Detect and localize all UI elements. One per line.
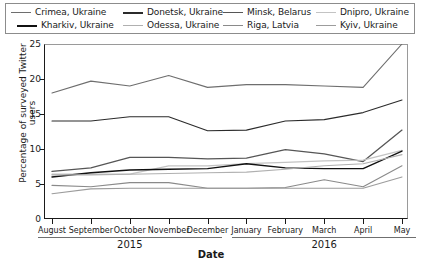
x-axis-tick-label: September <box>69 226 113 235</box>
legend-item[interactable]: Odessa, Ukraine <box>121 21 219 30</box>
legend-row: Kharkiv, UkraineOdessa, UkraineRiga, Lat… <box>9 19 411 32</box>
x-axis-year-groups: 20152016 <box>44 237 408 249</box>
x-axis-tickmark <box>130 219 131 224</box>
legend-item-label: Riga, Latvia <box>247 21 299 30</box>
legend-row: Crimea, UkraineDonetsk, UkraineMinsk, Be… <box>9 6 411 19</box>
year-group-rule <box>232 237 416 238</box>
y-axis-tickmark <box>40 184 44 185</box>
series-lines <box>44 44 408 219</box>
x-axis-tickmark <box>285 219 286 224</box>
legend-line-swatch <box>123 25 143 26</box>
chart-container: Crimea, UkraineDonetsk, UkraineMinsk, Be… <box>0 0 422 267</box>
y-axis-tick-label: 25 <box>30 40 41 49</box>
x-axis-tickmark <box>363 219 364 224</box>
legend-line-swatch <box>123 12 143 14</box>
x-axis-tick-label: March <box>312 226 336 235</box>
x-axis-title: Date <box>0 249 422 260</box>
y-axis-tickmark <box>40 114 44 115</box>
x-axis-tickmark <box>402 219 403 224</box>
x-axis-tickmark <box>52 219 53 224</box>
series-line <box>52 100 402 131</box>
x-axis-tickmark <box>91 219 92 224</box>
x-axis-tick-label: April <box>354 226 372 235</box>
x-axis-tick-label: December <box>187 226 228 235</box>
year-group-rule <box>38 237 222 238</box>
legend-item-label: Donetsk, Ukraine <box>147 8 223 17</box>
legend-item-label: Minsk, Belarus <box>247 8 311 17</box>
legend-item[interactable]: Dnipro, Ukraine <box>314 8 409 17</box>
legend-item-label: Odessa, Ukraine <box>147 21 219 30</box>
y-axis-tickmark <box>40 149 44 150</box>
y-axis-tickmark <box>40 79 44 80</box>
y-axis-tick-label: 0 <box>35 215 41 224</box>
legend-item[interactable]: Minsk, Belarus <box>221 8 311 17</box>
legend-item[interactable]: Kyiv, Ukraine <box>314 21 398 30</box>
legend-item[interactable]: Kharkiv, Ukraine <box>15 21 114 30</box>
series-line <box>52 150 402 174</box>
plot-area: 0510152025 <box>44 44 408 219</box>
legend-item[interactable]: Donetsk, Ukraine <box>121 8 223 17</box>
legend-line-swatch <box>11 12 31 13</box>
x-axis-tick-label: February <box>268 226 303 235</box>
series-line <box>52 44 402 93</box>
legend-item-label: Dnipro, Ukraine <box>340 8 409 17</box>
chart-legend: Crimea, UkraineDonetsk, UkraineMinsk, Be… <box>5 3 415 34</box>
x-axis-tick-label: May <box>394 226 411 235</box>
x-axis-tick-label: January <box>231 226 261 235</box>
legend-item[interactable]: Riga, Latvia <box>221 21 299 30</box>
x-axis-tickmarks <box>44 219 408 224</box>
legend-line-swatch <box>17 25 37 27</box>
x-axis-tickmark <box>208 219 209 224</box>
x-axis-tickmark <box>246 219 247 224</box>
legend-item-label: Crimea, Ukraine <box>35 8 106 17</box>
legend-line-swatch <box>316 25 336 26</box>
legend-item-label: Kharkiv, Ukraine <box>41 21 114 30</box>
legend-line-swatch <box>316 12 336 13</box>
x-axis-tickmark <box>169 219 170 224</box>
x-axis-tick-label: October <box>114 226 146 235</box>
x-axis-tick-label: November <box>148 226 190 235</box>
x-axis-tickmark <box>324 219 325 224</box>
legend-item[interactable]: Crimea, Ukraine <box>9 8 106 17</box>
legend-line-swatch <box>223 25 243 26</box>
x-axis-tick-label: August <box>38 226 66 235</box>
legend-item-label: Kyiv, Ukraine <box>340 21 398 30</box>
legend-line-swatch <box>223 12 243 13</box>
